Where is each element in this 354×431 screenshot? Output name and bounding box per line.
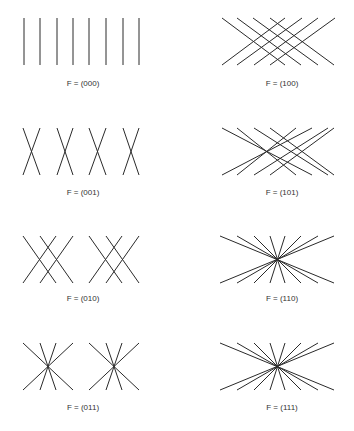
line-set xyxy=(222,128,334,175)
line-set xyxy=(24,18,139,65)
line-set xyxy=(222,18,335,65)
line-set xyxy=(23,236,139,283)
line-set xyxy=(23,343,139,390)
panel-label: F = (010) xyxy=(67,294,100,303)
panel-101: F = (101) xyxy=(222,128,334,197)
panel-label: F = (110) xyxy=(266,294,298,303)
panel-000: F = (000) xyxy=(24,18,139,88)
panel-110: F = (110) xyxy=(220,236,334,303)
panel-label: F = (000) xyxy=(67,79,100,88)
panel-001: F = (001) xyxy=(23,128,139,197)
panel-111: F = (111) xyxy=(220,343,334,412)
panel-100: F = (100) xyxy=(222,18,335,88)
panel-label: F = (100) xyxy=(266,79,299,88)
panel-010: F = (010) xyxy=(23,236,139,303)
panel-label: F = (111) xyxy=(266,403,298,412)
line-set xyxy=(23,128,139,175)
panel-label: F = (011) xyxy=(67,403,99,412)
line-configuration-figure: F = (000)F = (100)F = (001)F = (101)F = … xyxy=(0,0,354,431)
line-set xyxy=(220,343,334,390)
panel-label: F = (101) xyxy=(266,188,299,197)
panel-label: F = (001) xyxy=(67,188,100,197)
panel-011: F = (011) xyxy=(23,343,139,412)
line-set xyxy=(220,236,334,283)
